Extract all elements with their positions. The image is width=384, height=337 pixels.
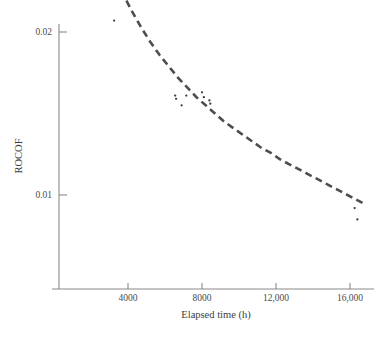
data-point: [208, 99, 210, 101]
axis-lines: [52, 24, 374, 289]
data-point: [181, 104, 183, 106]
x-axis-title: Elapsed time (h): [181, 309, 251, 321]
y-axis-title: ROCOF: [13, 138, 24, 173]
y-tick-label: 0.01: [35, 190, 52, 200]
x-axis-ticks: 4000800012,00016,000: [119, 283, 364, 303]
y-axis-ticks: 0.010.020.03: [35, 0, 67, 200]
data-point: [113, 19, 115, 21]
data-point: [174, 94, 176, 96]
data-point: [201, 91, 203, 93]
chart-canvas: 0.010.020.03 4000800012,00016,000 Elapse…: [0, 0, 384, 337]
data-point: [356, 218, 358, 220]
y-tick-label: 0.02: [35, 27, 52, 37]
data-point: [353, 207, 355, 209]
data-point: [175, 98, 177, 100]
x-tick-label: 8000: [193, 293, 212, 303]
x-tick-label: 12,000: [263, 293, 289, 303]
x-tick-label: 4000: [119, 293, 138, 303]
scatter-points: [95, 0, 358, 221]
x-tick-label: 16,000: [337, 293, 363, 303]
chart-figure: 0.010.020.03 4000800012,00016,000 Elapse…: [0, 0, 384, 337]
fitted-curve: [76, 0, 363, 203]
data-point: [185, 94, 187, 96]
data-point: [203, 96, 205, 98]
data-point: [209, 103, 211, 105]
